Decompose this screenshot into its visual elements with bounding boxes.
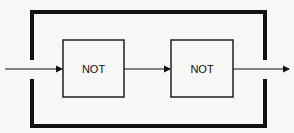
outer-frame-left-top bbox=[32, 12, 118, 60]
not-block-1-label: NOT bbox=[82, 63, 106, 75]
outer-frame-left-bottom bbox=[32, 79, 265, 126]
not-block-2-label: NOT bbox=[190, 63, 214, 75]
outer-frame-top-right bbox=[118, 12, 265, 60]
not-not-diagram: NOT NOT bbox=[0, 0, 294, 133]
